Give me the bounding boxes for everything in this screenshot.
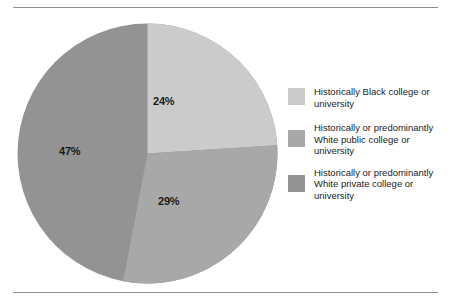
legend-swatch-historically-black	[288, 88, 305, 105]
slice-label-29: 29%	[158, 195, 179, 207]
slice-label-47: 47%	[59, 145, 80, 157]
bottom-divider-rule	[13, 292, 438, 293]
pie-slice-white-public	[123, 145, 277, 283]
pie-svg	[17, 23, 278, 284]
pie-chart-figure: 24% 29% 47% Historically Black college o…	[0, 0, 451, 307]
pie-graphic: 24% 29% 47%	[17, 23, 278, 284]
legend-swatch-white-public	[288, 130, 305, 147]
legend-item-white-private: Historically or predominantly White priv…	[288, 167, 448, 202]
legend-label-historically-black: Historically Black college or university	[314, 86, 448, 109]
legend-label-white-public: Historically or predominantly White publ…	[314, 122, 448, 157]
legend-swatch-white-private	[288, 175, 305, 192]
legend-item-white-public: Historically or predominantly White publ…	[288, 122, 448, 157]
legend-item-historically-black: Historically Black college or university	[288, 86, 448, 112]
slice-label-24: 24%	[153, 95, 174, 107]
legend: Historically Black college or university…	[288, 86, 448, 212]
chart-area: 24% 29% 47% Historically Black college o…	[0, 0, 451, 307]
pie-slice-historically-black	[148, 24, 278, 154]
legend-label-white-private: Historically or predominantly White priv…	[314, 167, 448, 202]
